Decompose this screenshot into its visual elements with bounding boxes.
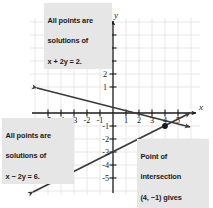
x-axis-label: x [198, 102, 203, 112]
y-tick-label: -3 [102, 148, 109, 157]
y-tick-label: -1 [102, 122, 109, 131]
y-tick-label: -2 [102, 135, 109, 144]
y-tick-label: -5 [102, 174, 109, 183]
y-axis-label: y [113, 10, 118, 20]
callout-line: solutions of [6, 151, 47, 160]
y-tick-label: 2 [103, 70, 107, 79]
callout-equation-two: All points are solutions of x − 2y = 6. [2, 118, 74, 184]
callout-line: x − 2y = 6. [6, 172, 40, 181]
callout-line: intersection [141, 172, 182, 181]
x-tick-label: 4 [163, 116, 167, 125]
y-tick-label: -4 [102, 161, 109, 170]
callout-intersection: Point of intersection (4, −1) gives the … [137, 139, 209, 208]
callout-line: Point of [141, 152, 168, 161]
callout-line: (4, −1) gives [141, 193, 182, 202]
callout-equation-one: All points are solutions of x + 2y = 2. [44, 3, 112, 69]
graph-figure: -5 -4 -3 -2 -1 1 2 3 4 5 5 4 3 2 1 -1 -2… [0, 0, 213, 208]
y-tick-label: 1 [103, 83, 107, 92]
x-tick-label: 5 [176, 116, 180, 125]
callout-line: All points are [6, 131, 51, 140]
x-tick-label: -2 [84, 116, 91, 125]
callout-line: All points are [48, 16, 93, 25]
x-tick-label: 1 [124, 116, 128, 125]
x-tick-label: 3 [150, 116, 154, 125]
callout-line: solutions of [48, 36, 89, 45]
x-tick-label: 2 [137, 116, 141, 125]
callout-line: x + 2y = 2. [48, 57, 82, 66]
